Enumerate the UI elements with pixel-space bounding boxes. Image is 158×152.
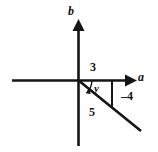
triangle-hypotenuse bbox=[78, 80, 141, 131]
horizontal-axis-label: a bbox=[138, 71, 144, 83]
diagram-canvas bbox=[0, 0, 158, 152]
vertical-axis-label: b bbox=[68, 5, 74, 17]
vertical-axis-arrowhead bbox=[73, 19, 85, 31]
angle-label: y bbox=[94, 83, 99, 94]
hypotenuse-label: 5 bbox=[89, 106, 95, 118]
opposite-side-label: –4 bbox=[121, 90, 133, 102]
adjacent-side-label: 3 bbox=[90, 61, 96, 73]
horizontal-axis-arrowhead bbox=[125, 75, 137, 87]
coordinate-diagram: b a 3 –4 5 y bbox=[0, 0, 158, 152]
